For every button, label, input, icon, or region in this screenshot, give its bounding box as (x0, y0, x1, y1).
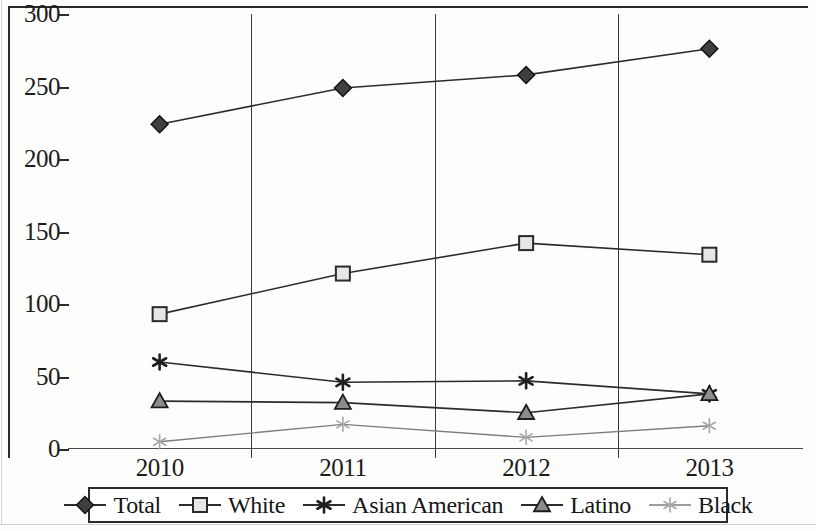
y-tick-label: 300 (0, 1, 60, 26)
data-point-marker (193, 498, 207, 512)
filled-diamond-icon (63, 494, 107, 516)
line-chart: 050100150200250300 2010201120122013 Tota… (0, 0, 816, 531)
y-tick-mark (59, 232, 69, 234)
data-point-marker (152, 393, 168, 407)
y-tick-label: 100 (0, 291, 60, 316)
data-point-marker (334, 79, 351, 96)
light-asterisk-icon (648, 494, 692, 516)
y-tick-mark (59, 87, 69, 89)
y-tick-label: 250 (0, 74, 60, 99)
open-square-icon (178, 494, 222, 516)
data-point-marker (519, 236, 533, 250)
series-latino (152, 386, 718, 419)
legend-label: White (228, 493, 285, 517)
data-point-marker (336, 267, 350, 281)
legend-label: Total (113, 493, 160, 517)
legend-entry: Asian American (302, 493, 503, 517)
y-tick-mark (59, 159, 69, 161)
legend-entry: Latino (520, 493, 631, 517)
x-tick-label: 2010 (90, 455, 230, 481)
legend-label: Black (698, 493, 752, 517)
x-tick-label: 2011 (273, 455, 413, 481)
page-bottom-rule (0, 524, 816, 525)
y-tick-mark (59, 304, 69, 306)
data-point-marker (702, 248, 716, 262)
series-layer (68, 14, 801, 449)
y-tick-label: 150 (0, 219, 60, 244)
x-tick-mark (251, 449, 252, 458)
x-tick-mark (618, 449, 619, 458)
data-point-marker (77, 497, 94, 514)
legend-label: Latino (570, 493, 631, 517)
asterisk-icon (302, 494, 346, 516)
legend: TotalWhiteAsian AmericanLatinoBlack (88, 487, 728, 523)
legend-entry: White (178, 493, 285, 517)
series-asian-american (153, 355, 716, 402)
data-point-marker (335, 395, 351, 409)
series-white (153, 236, 717, 321)
data-point-marker (518, 66, 535, 83)
y-tick-mark (59, 377, 69, 379)
y-tick-mark (59, 14, 69, 16)
plot-area (68, 14, 801, 449)
series-black (154, 417, 716, 448)
data-point-marker (151, 116, 168, 133)
data-point-marker (153, 307, 167, 321)
y-tick-mark (59, 449, 69, 451)
open-triangle-icon (520, 494, 564, 516)
data-point-marker (701, 40, 718, 57)
y-tick-label: 50 (0, 364, 60, 389)
x-tick-label: 2013 (639, 455, 779, 481)
legend-label: Asian American (352, 493, 503, 517)
x-tick-mark (435, 449, 436, 458)
y-tick-label: 0 (0, 436, 60, 461)
legend-entry: Black (648, 493, 752, 517)
legend-entry: Total (63, 493, 160, 517)
series-total (151, 40, 718, 132)
y-tick-label: 200 (0, 146, 60, 171)
x-tick-label: 2012 (456, 455, 596, 481)
